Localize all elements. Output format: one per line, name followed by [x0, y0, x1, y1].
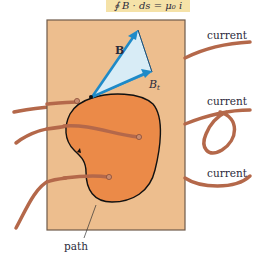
ampere-law-diagram: ∮ B · ds = μ₀ i B Bt [0, 0, 271, 264]
equation-text: ∮ B · ds = μ₀ i [114, 0, 182, 12]
vector-b-label: B [115, 44, 124, 57]
wire-1-front [47, 102, 77, 104]
path-point [89, 95, 93, 99]
wire-2-pierce [136, 134, 141, 139]
wire-1-pierce [74, 98, 79, 103]
wire-right-1 [185, 42, 250, 58]
current-label-2: current [207, 95, 248, 107]
wire-3 [16, 180, 50, 228]
current-label-1: current [207, 29, 248, 41]
path-label: path [64, 240, 88, 252]
equation-box: ∮ B · ds = μ₀ i [106, 0, 190, 12]
wire-3-pierce [106, 174, 111, 179]
wire-3-inside [64, 176, 108, 178]
current-label-3: current [207, 167, 248, 179]
wire-right-2-loop [185, 110, 250, 153]
